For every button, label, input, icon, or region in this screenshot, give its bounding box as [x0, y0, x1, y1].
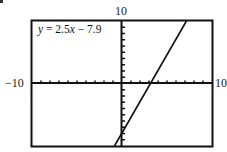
graph-window: [0, 0, 227, 152]
equation-coef: = 2.5: [43, 23, 70, 35]
equation-const: − 7.9: [75, 23, 102, 35]
equation-label: y = 2.5x − 7.9: [38, 23, 101, 35]
